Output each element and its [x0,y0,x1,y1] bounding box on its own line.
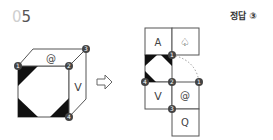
net-face-v: V [154,90,162,103]
svg-text:2: 2 [170,78,174,85]
cube-top-face-label: @ [46,53,56,64]
net-face-q: Q [181,117,189,128]
net-face-at: @ [180,90,190,101]
svg-text:3: 3 [170,105,174,112]
cube-right-face-label: V [74,81,82,94]
net-face-a: A [155,37,162,48]
svg-text:3: 3 [84,45,88,52]
svg-text:4: 4 [143,78,147,85]
fold-arc [172,55,199,82]
svg-text:1: 1 [197,78,201,85]
svg-text:4: 4 [67,113,71,120]
cube-diagram: @ V 1 2 3 4 A ♤ V @ Q 1 2 1 4 3 [0,0,273,140]
arrow-icon [97,75,112,89]
net-face-spade: ♤ [180,36,190,49]
svg-text:1: 1 [170,51,174,58]
svg-text:2: 2 [67,62,71,69]
svg-text:1: 1 [16,62,20,69]
